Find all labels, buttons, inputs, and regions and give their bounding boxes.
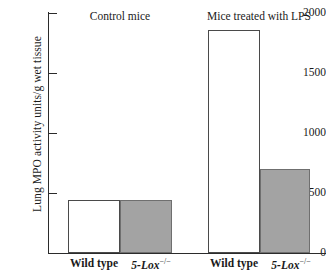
bar-lps-wild-type	[208, 30, 260, 253]
bar-chart-figure: Lung MPO activity units/g wet tissue Con…	[0, 0, 326, 279]
plot-area	[0, 0, 326, 279]
bar-control-wild-type	[68, 200, 120, 253]
x-axis-baseline	[48, 253, 326, 254]
x-label-lps-wild-type: Wild type	[204, 257, 264, 269]
bar-control-5lox-ko	[120, 200, 172, 253]
bar-lps-5lox-ko	[260, 169, 310, 253]
genotype-superscript: −/−	[159, 257, 170, 266]
x-label-control-5lox-ko: 5-Lox−/−	[120, 257, 182, 271]
x-label-lps-5lox-ko: 5-Lox−/−	[260, 257, 322, 271]
gene-name-text: 5-Lox	[131, 259, 159, 271]
genotype-superscript-2: −/−	[299, 257, 310, 266]
gene-name-text-2: 5-Lox	[271, 259, 299, 271]
x-label-control-wild-type: Wild type	[64, 257, 124, 269]
